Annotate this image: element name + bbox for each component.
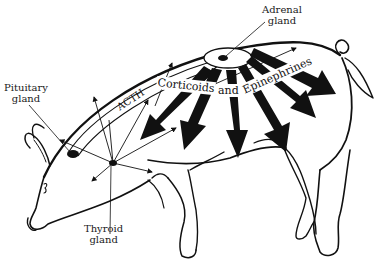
thyroid-gland-label: Thyroid gland bbox=[84, 223, 123, 245]
adrenal-line-1: Adrenal bbox=[262, 4, 302, 15]
thyroid-gland-dot bbox=[109, 160, 117, 166]
adrenal-gland-label: Adrenal gland bbox=[262, 4, 302, 26]
pituitary-line-2: gland bbox=[4, 93, 48, 104]
pig-illustration bbox=[0, 0, 381, 275]
thyroid-line-2: gland bbox=[84, 234, 123, 245]
thyroid-line-1: Thyroid bbox=[84, 223, 123, 234]
pig-endocrine-diagram: Pituitary gland Adrenal gland Thyroid gl… bbox=[0, 0, 381, 275]
pituitary-line-1: Pituitary bbox=[4, 82, 48, 93]
pituitary-gland-label: Pituitary gland bbox=[4, 82, 48, 104]
and-label: and bbox=[217, 84, 240, 97]
adrenal-line-2: gland bbox=[262, 15, 302, 26]
